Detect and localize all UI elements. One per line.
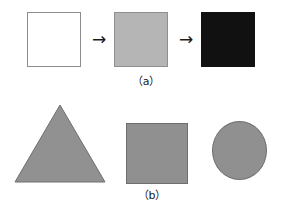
gray-triangle-svg: [14, 104, 106, 183]
arrow-right-icon-2: →: [175, 29, 197, 49]
arrow-right-icon-1: →: [88, 29, 110, 49]
gray-circle: [212, 121, 267, 180]
caption-a: （a）: [116, 72, 176, 88]
caption-b: （b）: [122, 186, 182, 202]
black-square: [201, 12, 255, 67]
white-square: [27, 12, 81, 67]
gray-triangle: [14, 104, 106, 183]
gray-square-a: [114, 12, 168, 67]
gray-square-b: [126, 123, 188, 184]
figure-panel: → → （a） （b）: [0, 0, 282, 209]
